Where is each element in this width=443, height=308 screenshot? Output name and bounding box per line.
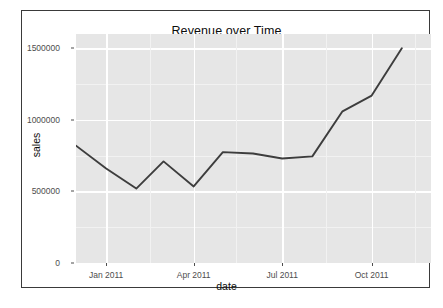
x-tick-label: Jul 2011: [266, 270, 298, 280]
x-tick-mark: [194, 263, 195, 266]
data-line-layer: [76, 34, 431, 263]
x-tick-label: Apr 2011: [177, 270, 211, 280]
plot-panel: [76, 34, 431, 263]
x-axis-title: date: [22, 280, 431, 292]
y-tick-label: 0: [55, 258, 60, 268]
y-tick-mark: [71, 119, 74, 120]
x-tick-mark: [106, 263, 107, 266]
x-tick-label: Jan 2011: [89, 270, 123, 280]
y-tick-label: 1500000: [27, 43, 60, 53]
x-tick-mark: [282, 263, 283, 266]
y-tick-label: 1000000: [27, 115, 60, 125]
sales-line-series: [76, 48, 402, 188]
y-axis-ticks: 050000010000001500000: [22, 34, 70, 263]
x-tick-mark: [372, 263, 373, 266]
y-tick-mark: [71, 48, 74, 49]
y-tick-mark: [71, 263, 74, 264]
plot-frame: Revenue over Time sales 0500000100000015…: [21, 10, 430, 288]
y-tick-label: 500000: [32, 186, 60, 196]
chart-figure: Revenue over Time sales 0500000100000015…: [0, 0, 443, 308]
y-tick-mark: [71, 191, 74, 192]
plot-panel-inner: [76, 34, 431, 263]
x-tick-label: Oct 2011: [355, 270, 389, 280]
